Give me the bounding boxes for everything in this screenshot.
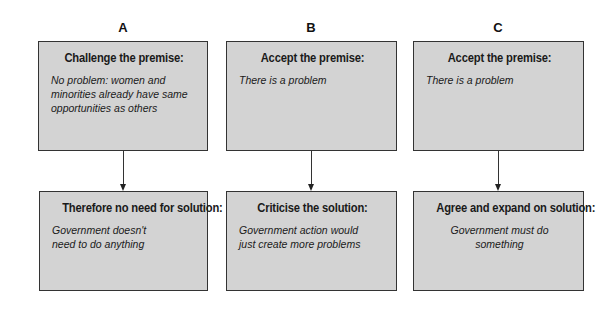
- premise-body-b: There is a problem: [239, 73, 386, 87]
- arrow-down-icon: [120, 184, 126, 191]
- solution-body-b: Government action would just create more…: [239, 223, 368, 251]
- column-label-b: B: [291, 20, 331, 35]
- premise-box-b: Accept the premise: There is a problem: [226, 41, 397, 151]
- premise-box-a: Challenge the premise: No problem: women…: [38, 41, 208, 151]
- solution-title-b: Criticise the solution:: [249, 200, 375, 215]
- column-label-a: A: [103, 20, 143, 35]
- arrow-down-icon: [308, 184, 314, 191]
- solution-box-c: Agree and expand on solution: Government…: [413, 191, 584, 291]
- solution-body-c: Government must do something: [426, 223, 573, 251]
- arrow-line-a: [123, 151, 124, 185]
- solution-box-a: Therefore no need for solution: Governme…: [39, 191, 208, 291]
- premise-title-c: Accept the premise:: [436, 50, 562, 65]
- arrow-line-c: [498, 151, 499, 185]
- solution-box-b: Criticise the solution: Government actio…: [226, 191, 397, 291]
- premise-body-a: No problem: women and minorities already…: [51, 73, 197, 115]
- solution-title-a: Therefore no need for solution:: [62, 200, 187, 215]
- premise-title-a: Challenge the premise:: [61, 50, 187, 65]
- arrow-down-icon: [495, 184, 501, 191]
- premise-title-b: Accept the premise:: [249, 50, 375, 65]
- solution-body-a: Government doesn't need to do anything: [52, 223, 156, 251]
- premise-body-c: There is a problem: [426, 73, 573, 87]
- premise-box-c: Accept the premise: There is a problem: [413, 41, 584, 151]
- solution-title-c: Agree and expand on solution:: [436, 200, 562, 215]
- arrow-line-b: [311, 151, 312, 185]
- column-label-c: C: [478, 20, 518, 35]
